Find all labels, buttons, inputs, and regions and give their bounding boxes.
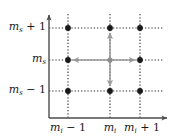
lattice-node [137, 88, 143, 94]
lattice-node [65, 25, 71, 31]
y-axis-label-bottom: ms − 1 [9, 84, 46, 97]
lattice-node [107, 88, 113, 94]
x-label-right-base: m [124, 121, 134, 134]
y-axis-label-top: ms + 1 [9, 21, 46, 34]
lattice-transition-figure: ms + 1 ms ms − 1 mi − 1 mi mi + 1 [0, 0, 174, 138]
y-label-bottom-base: m [9, 83, 19, 96]
y-label-bottom-operator: − [26, 83, 35, 96]
transition-arrows [73, 33, 135, 86]
y-label-middle-base: m [32, 52, 42, 65]
y-axis-label-middle: ms [32, 53, 46, 66]
x-label-right-operand: 1 [153, 121, 160, 134]
y-label-top-operand: 1 [39, 20, 46, 33]
x-label-left-base: m [50, 121, 60, 134]
y-label-middle-subscript: s [42, 58, 46, 66]
lattice-node [137, 25, 143, 31]
x-axis-label-left: mi − 1 [40, 122, 96, 135]
y-label-top-operator: + [26, 20, 35, 33]
lattice-node [65, 88, 71, 94]
y-label-top-base: m [9, 20, 19, 33]
y-label-bottom-operand: 1 [39, 83, 46, 96]
lattice-node [107, 25, 113, 31]
x-label-middle-base: m [104, 121, 114, 134]
lattice-node [137, 57, 143, 63]
x-axis-label-right: mi + 1 [116, 122, 168, 135]
x-label-left-operand: 1 [79, 121, 86, 134]
gridlines-vertical [68, 14, 140, 118]
lattice-node [65, 57, 71, 63]
lattice-node-center [107, 57, 112, 62]
